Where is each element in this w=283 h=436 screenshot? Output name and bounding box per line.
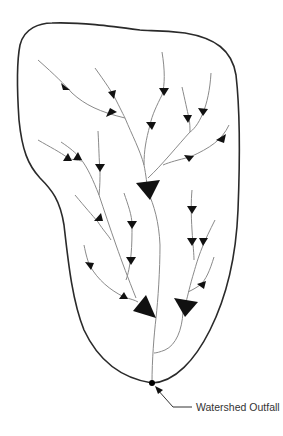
large-flow-arrow-icon bbox=[136, 180, 160, 200]
stream bbox=[148, 73, 211, 178]
stream bbox=[124, 193, 132, 280]
flow-arrow-icon bbox=[127, 221, 137, 229]
flow-arrow-icon bbox=[183, 115, 192, 123]
large-flow-arrow-icon bbox=[174, 298, 198, 317]
flow-arrow-icon bbox=[73, 152, 82, 160]
flow-arrow-icon bbox=[85, 262, 94, 270]
outfall-label: Watershed Outfall bbox=[196, 401, 280, 413]
flow-arrow-icon bbox=[159, 88, 169, 96]
flow-arrow-icon bbox=[146, 122, 156, 130]
flow-arrow-icon bbox=[126, 257, 136, 265]
stream bbox=[182, 87, 190, 132]
flow-arrow-icon bbox=[95, 164, 105, 172]
stream bbox=[154, 312, 183, 353]
stream bbox=[75, 195, 111, 240]
stream bbox=[191, 190, 194, 260]
large-flow-arrow-icon bbox=[133, 295, 156, 318]
stream bbox=[98, 131, 100, 195]
outfall-pointer bbox=[155, 386, 192, 407]
stream bbox=[95, 68, 148, 192]
flow-direction-arrows bbox=[61, 83, 226, 318]
watershed-diagram: Watershed Outfall bbox=[0, 0, 283, 436]
pointer-arrow-icon bbox=[155, 386, 163, 394]
flow-arrow-icon bbox=[198, 108, 208, 116]
outfall-point bbox=[149, 380, 155, 386]
drainage-streams bbox=[38, 52, 229, 383]
stream bbox=[144, 52, 164, 165]
stream bbox=[163, 125, 229, 165]
stream bbox=[186, 220, 215, 302]
flow-arrow-icon bbox=[197, 281, 206, 289]
main-channel bbox=[148, 192, 160, 383]
stream bbox=[84, 245, 138, 302]
flow-arrow-icon bbox=[216, 134, 226, 143]
flow-arrow-icon bbox=[187, 206, 197, 214]
leader-line bbox=[157, 389, 192, 407]
flow-arrow-icon bbox=[199, 238, 208, 246]
flow-arrow-icon bbox=[187, 238, 197, 246]
watershed-boundary bbox=[18, 23, 240, 383]
flow-arrow-icon bbox=[63, 153, 72, 161]
flow-arrow-icon bbox=[94, 213, 103, 221]
